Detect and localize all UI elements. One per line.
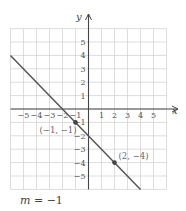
y-tick-label: −5 bbox=[74, 172, 86, 181]
y-tick-label: 5 bbox=[80, 38, 85, 47]
axes bbox=[11, 14, 179, 189]
coordinate-graph: −5−4−3−2−11234554321−1−2−3−4−5 (−1, −1)(… bbox=[0, 0, 186, 211]
x-tick-label: 4 bbox=[138, 111, 143, 120]
y-tick-label: −3 bbox=[74, 145, 86, 154]
x-tick-label: 2 bbox=[112, 111, 117, 120]
point-marker bbox=[73, 120, 78, 125]
y-tick-label: 3 bbox=[80, 65, 85, 74]
x-tick-label: 5 bbox=[151, 111, 156, 120]
point-label: (−1, −1) bbox=[40, 125, 77, 135]
x-tick-label: −4 bbox=[31, 111, 43, 120]
point-marker bbox=[112, 160, 117, 165]
y-axis-label: y bbox=[75, 11, 82, 22]
slope-caption: m = −1 bbox=[20, 194, 63, 207]
slope-value: −1 bbox=[47, 194, 63, 207]
x-tick-label: −3 bbox=[44, 111, 56, 120]
y-tick-label: 1 bbox=[80, 92, 85, 101]
y-tick-label: 2 bbox=[80, 78, 85, 87]
slope-equals: = bbox=[30, 194, 46, 207]
y-tick-label: −4 bbox=[74, 159, 86, 168]
x-tick-label: −5 bbox=[18, 111, 30, 120]
y-tick-label: 4 bbox=[80, 51, 85, 60]
x-axis-label: x bbox=[172, 105, 178, 116]
x-tick-label: 3 bbox=[125, 111, 130, 120]
x-tick-label: 1 bbox=[99, 111, 104, 120]
point-label: (2, −4) bbox=[119, 151, 149, 161]
slope-variable: m bbox=[20, 194, 30, 207]
